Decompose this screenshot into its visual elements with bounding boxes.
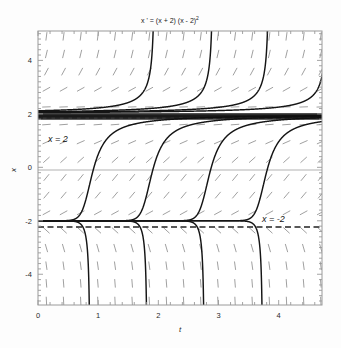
direction-field-plot: x ' = (x + 2) (x - 2)2 01234 420-2-4 t x <box>0 0 341 348</box>
y-tick-label: 2 <box>28 110 32 119</box>
y-tick-label: -4 <box>25 270 32 279</box>
x-tick-label: 4 <box>277 311 281 320</box>
x-tick-label: 1 <box>96 311 100 320</box>
annotation-x-equals-minus-2: x = -2 <box>261 214 285 224</box>
y-tick-label: -2 <box>25 217 32 226</box>
x-tick-label: 2 <box>156 311 160 320</box>
annotation-x-equals-2: x = 2 <box>47 134 68 144</box>
x-tick-label: 3 <box>216 311 220 320</box>
attractor-band <box>38 114 322 119</box>
chart-title: x ' = (x + 2) (x - 2)2 <box>141 15 199 25</box>
y-tick-label: 4 <box>28 56 32 65</box>
figure-container: x ' = (x + 2) (x - 2)2 01234 420-2-4 t x <box>0 0 341 348</box>
x-tick-label: 0 <box>36 311 40 320</box>
y-tick-label: 0 <box>28 163 32 172</box>
